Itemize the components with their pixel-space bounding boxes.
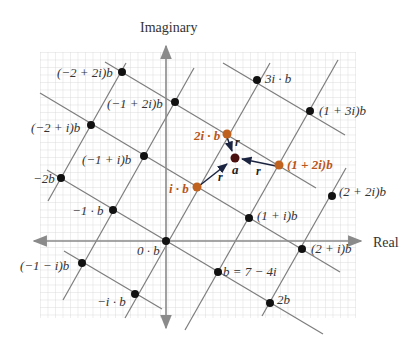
point-1-plus-2i <box>275 161 284 170</box>
point-2b <box>266 299 274 307</box>
label-neg2: −2b <box>33 171 55 186</box>
real-axis-label: Real <box>373 235 399 250</box>
label-2-plus-2i: (2 + 2i)b <box>339 184 387 199</box>
label-3i: 3i · b <box>264 71 292 86</box>
point-2i <box>223 130 232 139</box>
label-neg1: −1 · b <box>72 203 104 218</box>
point-1-plus-i <box>245 214 253 222</box>
distance-label-right: r <box>256 164 261 178</box>
label-neg1-minus-i: (−1 − i)b <box>20 258 70 273</box>
point-3i <box>253 76 261 84</box>
label-neg-i: −i · b <box>97 294 126 309</box>
label-neg1-plus-2i: (−1 + 2i)b <box>107 96 163 111</box>
lattice-diagram: Real Imaginary r r r (−2 + 2i)b (−1 + 2i… <box>0 0 415 342</box>
point-2-plus-i <box>298 245 306 253</box>
label-neg1-plus-i: (−1 + i)b <box>82 152 132 167</box>
label-a: a <box>232 162 239 177</box>
point-b <box>214 268 222 276</box>
point-1-plus-3i <box>306 107 314 115</box>
label-2b: 2b <box>277 292 291 307</box>
point-neg1-plus-2i <box>171 98 179 106</box>
point-neg1-minus-i <box>78 259 86 267</box>
label-2i: 2i · b <box>193 128 221 143</box>
point-neg2 <box>57 174 65 182</box>
label-origin: 0 · b <box>137 243 160 258</box>
label-neg2-plus-i: (−2 + i)b <box>31 120 81 135</box>
point-neg-i <box>131 290 139 298</box>
label-1-plus-i: (1 + i)b <box>257 208 298 223</box>
label-i: i · b <box>169 181 189 196</box>
point-neg1 <box>109 206 117 214</box>
label-2-plus-i: (2 + i)b <box>311 241 352 256</box>
distance-label-top: r <box>235 135 240 149</box>
label-b: b = 7 − 4i <box>223 264 277 279</box>
point-neg1-plus-i <box>140 152 148 160</box>
point-neg2-plus-2i <box>118 68 126 76</box>
point-neg2-plus-i <box>87 121 95 129</box>
point-2-plus-2i <box>328 192 336 200</box>
distance-label-left: r <box>218 170 223 184</box>
imaginary-axis-label: Imaginary <box>140 20 198 35</box>
label-neg2-plus-2i: (−2 + 2i)b <box>57 65 113 80</box>
point-origin <box>162 237 170 245</box>
label-1-plus-2i: (1 + 2i)b <box>287 157 333 172</box>
label-1-plus-3i: (1 + 3i)b <box>319 103 367 118</box>
point-i <box>193 183 202 192</box>
